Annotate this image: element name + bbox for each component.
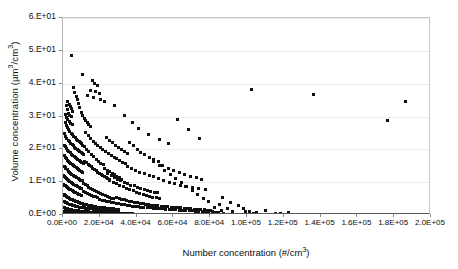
x-axis-ticks: 0.0E+002.0E+044.0E+046.0E+048.0E+041.0E+…	[0, 0, 458, 269]
x-axis-title: Number concentration (#/cm3)	[62, 247, 430, 258]
scatter-chart-figure: Volume concentration (µm3/cm3) 0.E+001.E…	[0, 0, 458, 269]
x-tick-mark	[172, 214, 173, 217]
x-tick-mark	[99, 214, 100, 217]
x-tick-mark	[430, 214, 431, 217]
x-tick-mark	[209, 214, 210, 217]
x-tick-mark	[393, 214, 394, 217]
x-tick-mark	[62, 214, 63, 217]
x-tick-mark	[356, 214, 357, 217]
x-axis-title-text: Number concentration (#/cm	[183, 247, 303, 258]
x-axis-title-tail: )	[306, 247, 309, 258]
x-tick-label: 2.0E+05	[406, 218, 454, 227]
x-tick-mark	[283, 214, 284, 217]
x-tick-mark	[320, 214, 321, 217]
x-tick-mark	[246, 214, 247, 217]
x-tick-mark	[136, 214, 137, 217]
